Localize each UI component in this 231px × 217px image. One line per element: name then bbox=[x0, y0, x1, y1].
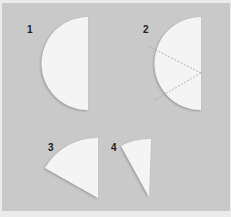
step-4-number: 4 bbox=[111, 143, 117, 153]
step-4-cone bbox=[121, 139, 151, 197]
folding-diagram: 1 2 3 4 bbox=[0, 0, 231, 217]
step-3-number: 3 bbox=[48, 143, 54, 153]
step-2-number: 2 bbox=[143, 25, 149, 35]
paper-shapes bbox=[0, 0, 231, 217]
step-1-semicircle bbox=[42, 17, 89, 110]
step-1-number: 1 bbox=[27, 25, 33, 35]
